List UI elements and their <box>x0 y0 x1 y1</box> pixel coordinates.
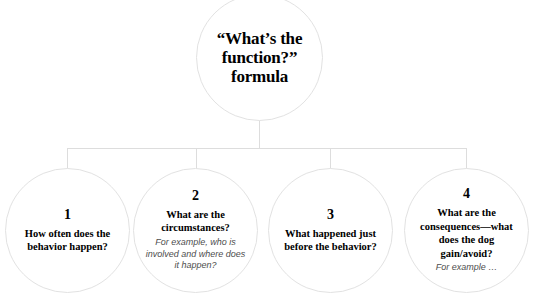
child-node-3: 3 What happened just before the behavior… <box>268 168 393 293</box>
connector-drop-3 <box>330 148 331 170</box>
child-node-4-content: 4 What are the consequences—what does th… <box>405 187 528 273</box>
child-node-2-number: 2 <box>192 189 199 203</box>
child-node-3-number: 3 <box>327 208 334 222</box>
child-node-2-content: 2 What are the circumstances? For exampl… <box>134 189 257 272</box>
child-node-1: 1 How often does the behavior happen? <box>5 168 130 293</box>
root-node-title: “What’s the function?” formula <box>197 29 322 86</box>
child-node-2-example: For example, who is involved and where d… <box>134 237 257 272</box>
connector-drop-2 <box>196 148 197 170</box>
connector-horizontal-bus <box>67 148 467 149</box>
child-node-4-example: For example … <box>425 262 509 274</box>
child-node-1-content: 1 How often does the behavior happen? <box>6 208 129 254</box>
child-node-3-question: What happened just before the behavior? <box>269 227 392 254</box>
child-node-4: 4 What are the consequences—what does th… <box>404 168 529 293</box>
child-node-2: 2 What are the circumstances? For exampl… <box>133 168 258 293</box>
root-node: “What’s the function?” formula <box>196 0 323 121</box>
child-node-2-question: What are the circumstances? <box>134 208 257 235</box>
child-node-4-number: 4 <box>463 187 470 201</box>
child-node-4-question: What are the consequences—what does the … <box>405 206 528 260</box>
child-node-1-number: 1 <box>64 208 71 222</box>
connector-root-stem <box>259 120 260 148</box>
child-node-3-content: 3 What happened just before the behavior… <box>269 208 392 254</box>
connector-drop-1 <box>67 148 68 170</box>
connector-drop-4 <box>466 148 467 170</box>
child-node-1-question: How often does the behavior happen? <box>6 227 129 254</box>
diagram-canvas: “What’s the function?” formula 1 How oft… <box>0 0 534 302</box>
